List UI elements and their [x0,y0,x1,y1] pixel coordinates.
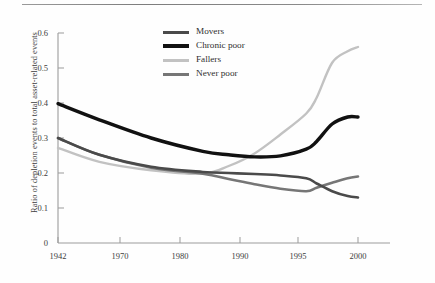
plot-area: Ratio of depletion events to total asset… [0,0,435,283]
legend-swatch-chronic-poor [163,44,189,48]
legend-item-movers[interactable]: Movers [163,25,313,39]
legend: Movers Chronic poor Fallers Never poor [163,25,313,81]
legend-swatch-movers [163,31,189,34]
legend-label-never-poor: Never poor [196,69,238,78]
legend-label-chronic-poor: Chronic poor [196,41,245,50]
y-axis-ticks [58,33,64,208]
legend-label-movers: Movers [196,27,224,36]
legend-item-chronic-poor[interactable]: Chronic poor [163,39,313,53]
x-axis-ticks [58,237,358,243]
figure-container: Ratio of depletion events to total asset… [0,0,435,283]
legend-item-fallers[interactable]: Fallers [163,53,313,67]
series-line-chronic-poor [58,104,358,157]
legend-swatch-fallers [163,59,189,62]
legend-item-never-poor[interactable]: Never poor [163,67,313,81]
legend-label-fallers: Fallers [196,55,221,64]
legend-swatch-never-poor [163,73,189,76]
